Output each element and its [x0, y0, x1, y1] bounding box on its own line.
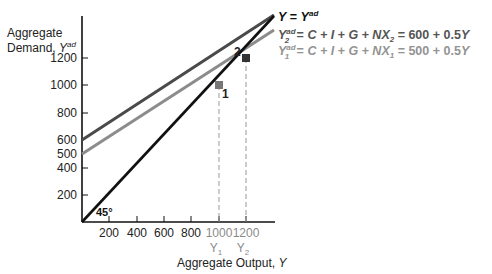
- x-axis-title: Aggregate Output, Y: [177, 256, 287, 270]
- y2-label: Y2: [237, 241, 250, 257]
- point-1-label: 1: [222, 87, 229, 101]
- legend-ad1: Yad1 = C + I + G + NX1 = 500 + 0.5Y: [278, 43, 471, 61]
- y-tick-1000: 1000: [50, 78, 77, 92]
- line-45-degree: [82, 16, 274, 222]
- legend-45-line: Y = Yad: [278, 9, 319, 24]
- y-tick-1200: 1200: [50, 51, 77, 65]
- angle-label: 45°: [96, 206, 113, 218]
- x-tick-800: 800: [181, 226, 201, 240]
- y-tick-800: 800: [57, 106, 77, 120]
- x-ticks: [109, 216, 246, 222]
- x-tick-600: 600: [154, 226, 174, 240]
- y-tick-400: 400: [57, 161, 77, 175]
- x-tick-400: 400: [127, 226, 147, 240]
- legend-ad2: Yad2 = C + I + G + NX2 = 600 + 0.5Y: [278, 27, 471, 45]
- x-tick-1000: 1000: [206, 226, 233, 240]
- y-ticks: [82, 58, 88, 195]
- x-tick-200: 200: [99, 226, 119, 240]
- x-tick-1200: 1200: [233, 226, 260, 240]
- y-tick-200: 200: [57, 188, 77, 202]
- point-2-label: 2: [234, 45, 241, 59]
- y-tick-600: 600: [57, 133, 77, 147]
- ad2-line: [82, 15, 274, 140]
- y-axis-title-line1: Aggregate: [7, 26, 63, 40]
- y-tick-500: 500: [57, 147, 77, 161]
- chart: Aggregate Demand, Yad 200 400 500 600 80…: [0, 0, 492, 274]
- y1-label: Y1: [210, 241, 223, 257]
- equilibrium-point-2: [242, 54, 250, 62]
